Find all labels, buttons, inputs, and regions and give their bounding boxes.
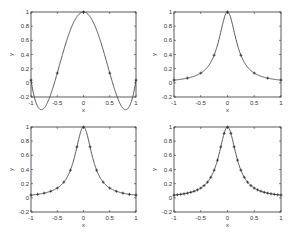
subplot-1: -1-0.500.51-0.200.20.40.60.81xy <box>8 9 138 113</box>
axes-box <box>174 12 281 97</box>
y-tick-label: 0.4 <box>164 52 173 58</box>
y-tick-label: -0.2 <box>19 209 30 215</box>
y-tick-label: 1 <box>26 124 30 130</box>
x-tick-label: 0.5 <box>106 215 115 221</box>
x-axis-label: x <box>226 222 229 228</box>
x-tick-label: 0.5 <box>250 215 259 221</box>
y-tick-label: 0.8 <box>21 23 30 29</box>
y-tick-label: -0.2 <box>162 94 173 100</box>
x-tick-label: 1 <box>279 215 283 221</box>
y-axis-label: y <box>8 168 14 171</box>
y-tick-label: 0 <box>26 195 30 201</box>
y-tick-label: 0.2 <box>21 66 30 72</box>
y-tick-label: 1 <box>26 9 30 15</box>
x-tick-label: -1 <box>28 100 34 106</box>
y-tick-label: -0.2 <box>19 94 30 100</box>
x-tick-label: 0.5 <box>250 100 259 106</box>
x-tick-label: 0 <box>82 100 86 106</box>
subplot-2: -1-0.500.51-0.200.20.40.60.81xy <box>151 9 283 113</box>
x-tick-label: -0.5 <box>196 100 207 106</box>
y-tick-label: 0.8 <box>164 138 173 144</box>
x-tick-label: -0.5 <box>52 215 63 221</box>
y-tick-label: 0.2 <box>164 66 173 72</box>
y-tick-label: 0 <box>169 195 173 201</box>
y-tick-label: 0.4 <box>164 167 173 173</box>
y-tick-label: -0.2 <box>162 209 173 215</box>
y-tick-label: 0.8 <box>21 138 30 144</box>
x-tick-label: 1 <box>279 100 283 106</box>
y-axis-label: y <box>8 53 14 56</box>
x-axis-label: x <box>82 107 85 113</box>
axes-box <box>174 127 281 212</box>
x-tick-label: -0.5 <box>52 100 63 106</box>
y-tick-label: 1 <box>169 9 173 15</box>
y-tick-label: 1 <box>169 124 173 130</box>
figure: -1-0.500.51-0.200.20.40.60.81xy-1-0.500.… <box>0 0 299 235</box>
y-tick-label: 0.6 <box>164 152 173 158</box>
x-tick-label: 0 <box>226 215 230 221</box>
x-axis-label: x <box>82 222 85 228</box>
y-tick-label: 0.6 <box>21 37 30 43</box>
y-tick-label: 0.2 <box>21 181 30 187</box>
x-tick-label: 1 <box>134 100 138 106</box>
y-tick-label: 0.6 <box>21 152 30 158</box>
x-tick-label: 0 <box>226 100 230 106</box>
axes-box <box>31 12 136 97</box>
y-tick-label: 0 <box>169 80 173 86</box>
x-tick-label: -1 <box>171 215 177 221</box>
subplot-4: -1-0.500.51-0.200.20.40.60.81xy <box>151 124 283 228</box>
y-tick-label: 0.4 <box>21 167 30 173</box>
y-tick-label: 0.8 <box>164 23 173 29</box>
y-axis-label: y <box>151 53 157 56</box>
y-tick-label: 0.2 <box>164 181 173 187</box>
x-tick-label: -1 <box>171 100 177 106</box>
x-tick-label: 0.5 <box>106 100 115 106</box>
y-tick-label: 0 <box>26 80 30 86</box>
y-axis-label: y <box>151 168 157 171</box>
x-tick-label: -0.5 <box>196 215 207 221</box>
x-axis-label: x <box>226 107 229 113</box>
x-tick-label: 1 <box>134 215 138 221</box>
subplot-3: -1-0.500.51-0.200.20.40.60.81xy <box>8 124 138 228</box>
y-tick-label: 0.4 <box>21 52 30 58</box>
x-tick-label: -1 <box>28 215 34 221</box>
y-tick-label: 0.6 <box>164 37 173 43</box>
x-tick-label: 0 <box>82 215 86 221</box>
axes-box <box>31 127 136 212</box>
